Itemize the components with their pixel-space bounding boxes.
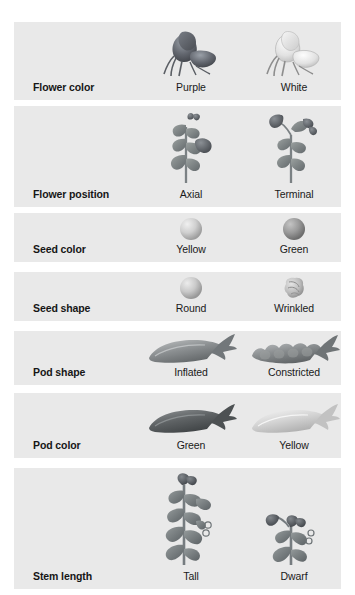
trait-label: Pod shape — [33, 366, 85, 378]
variant-label: Constricted — [239, 366, 341, 378]
trait-variant-recessive: Terminal — [239, 188, 341, 200]
trait-variant-recessive: Yellow — [239, 439, 341, 451]
trait-label: Flower color — [33, 81, 94, 93]
trait-row: Flower color Purple White — [14, 22, 341, 100]
trait-variant-dominant: Yellow — [136, 243, 246, 255]
inflated-pod-icon — [145, 332, 237, 366]
trait-label: Flower position — [33, 188, 109, 200]
axial-flower-stem-icon — [162, 109, 220, 185]
trait-variant-recessive: White — [239, 81, 341, 93]
trait-variant-dominant: Purple — [136, 81, 246, 93]
trait-label: Seed color — [33, 243, 86, 255]
dwarf-stem-plant-icon — [259, 471, 329, 567]
trait-label: Stem length — [33, 570, 92, 582]
trait-label: Pod color — [33, 439, 81, 451]
variant-label: Green — [239, 243, 341, 255]
yellow-seed-icon — [178, 216, 204, 242]
variant-label: White — [239, 81, 341, 93]
variant-label: Dwarf — [239, 570, 341, 582]
trait-row: Seed color Yellow Green — [14, 213, 341, 262]
variant-label: Terminal — [239, 188, 341, 200]
trait-variant-recessive: Wrinkled — [239, 302, 341, 314]
variant-label: Green — [136, 439, 246, 451]
trait-row: Pod color Green Yellow — [14, 393, 341, 458]
yellow-pod-icon — [248, 401, 340, 437]
trait-row: Stem length Tall Dwarf — [14, 468, 341, 589]
variant-label: Wrinkled — [239, 302, 341, 314]
variant-label: Inflated — [136, 366, 246, 378]
round-seed-icon — [178, 275, 204, 301]
trait-variant-recessive: Constricted — [239, 366, 341, 378]
variant-label: Yellow — [136, 243, 246, 255]
trait-variant-dominant: Inflated — [136, 366, 246, 378]
purple-flower-icon — [160, 28, 222, 78]
trait-variant-dominant: Green — [136, 439, 246, 451]
green-seed-icon — [281, 216, 307, 242]
constricted-pod-icon — [248, 332, 340, 366]
trait-row: Seed shape Round Wrinkled — [14, 272, 341, 321]
white-flower-icon — [263, 28, 325, 78]
trait-label: Seed shape — [33, 302, 90, 314]
wrinkled-seed-icon — [281, 275, 307, 301]
variant-label: Tall — [136, 570, 246, 582]
trait-row: Pod shape Inflated Constricted — [14, 331, 341, 385]
terminal-flower-stem-icon — [265, 109, 323, 185]
trait-variant-recessive: Green — [239, 243, 341, 255]
trait-row: Flower position Axial Terminal — [14, 106, 341, 207]
variant-label: Round — [136, 302, 246, 314]
trait-variant-recessive: Dwarf — [239, 570, 341, 582]
tall-stem-plant-icon — [156, 471, 226, 567]
trait-variant-dominant: Round — [136, 302, 246, 314]
variant-label: Purple — [136, 81, 246, 93]
trait-variant-dominant: Tall — [136, 570, 246, 582]
trait-variant-dominant: Axial — [136, 188, 246, 200]
green-pod-icon — [145, 401, 237, 437]
variant-label: Axial — [136, 188, 246, 200]
mendel-traits-figure: Flower color Purple White — [0, 0, 355, 595]
variant-label: Yellow — [239, 439, 341, 451]
